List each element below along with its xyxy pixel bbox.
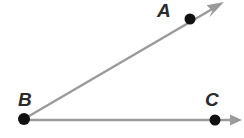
ray-BA-line [24, 8, 214, 119]
ray-BC-arrowhead-icon [230, 115, 242, 126]
point-C-dot [210, 115, 221, 126]
point-A-dot [185, 14, 196, 25]
geometry-figure: A B C [0, 0, 244, 138]
point-B-dot [18, 113, 30, 125]
point-label-c: C [205, 90, 219, 109]
geometry-canvas [0, 0, 244, 138]
point-label-a: A [157, 1, 171, 20]
ray-BC [24, 115, 242, 126]
point-label-b: B [18, 90, 32, 109]
